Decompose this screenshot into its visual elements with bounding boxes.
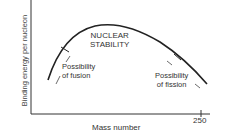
fission-arrow-upper bbox=[167, 61, 172, 65]
stability-line-2: STABILITY bbox=[90, 40, 129, 49]
fission-annotation: Possibility of fission bbox=[155, 71, 188, 89]
fission-arrow-lower bbox=[195, 84, 200, 88]
fusion-annotation: Possibility of fusion bbox=[62, 62, 95, 80]
fusion-line-2: of fusion bbox=[62, 71, 95, 80]
fission-line-1: Possibility bbox=[155, 71, 188, 80]
fission-line-2: of fission bbox=[155, 80, 188, 89]
fusion-arrow-lower bbox=[56, 76, 60, 84]
nuclear-stability-annotation: NUCLEAR STABILITY bbox=[90, 31, 129, 49]
fusion-line-1: Possibility bbox=[62, 62, 95, 71]
y-axis-label: Binding energy per nucleon bbox=[20, 1, 29, 121]
stability-line-1: NUCLEAR bbox=[90, 31, 129, 40]
x-axis-label: Mass number bbox=[92, 123, 140, 132]
x-tick-label-250: 250 bbox=[193, 116, 206, 125]
